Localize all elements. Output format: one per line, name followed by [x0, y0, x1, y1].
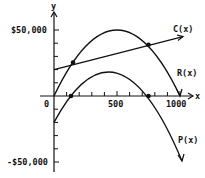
- profit-zero-point-2: [146, 94, 151, 99]
- profit-zero-point-1: [69, 94, 74, 99]
- revenue-series-label: R(x): [177, 69, 197, 78]
- x-tick-1000-label: 1000: [166, 100, 186, 109]
- x-axis-label: x: [195, 92, 200, 101]
- x-ticks: [67, 91, 180, 96]
- profit-revenue-cost-chart: y x 0 500 1000 $50,000 -$50,000 C(x) R(x…: [0, 0, 205, 178]
- y-axis-label: y: [51, 2, 56, 11]
- profit-series-label: P(x): [178, 136, 198, 145]
- break-even-point-1: [71, 60, 76, 65]
- x-tick-500-label: 500: [108, 100, 123, 109]
- profit-curve-P: [54, 72, 182, 161]
- break-even-point-2: [146, 43, 151, 48]
- cost-series-label: C(x): [173, 25, 193, 34]
- origin-label: 0: [44, 100, 49, 109]
- y-tick-pos-label: $50,000: [11, 26, 47, 35]
- y-tick-neg-label: -$50,000: [7, 158, 48, 167]
